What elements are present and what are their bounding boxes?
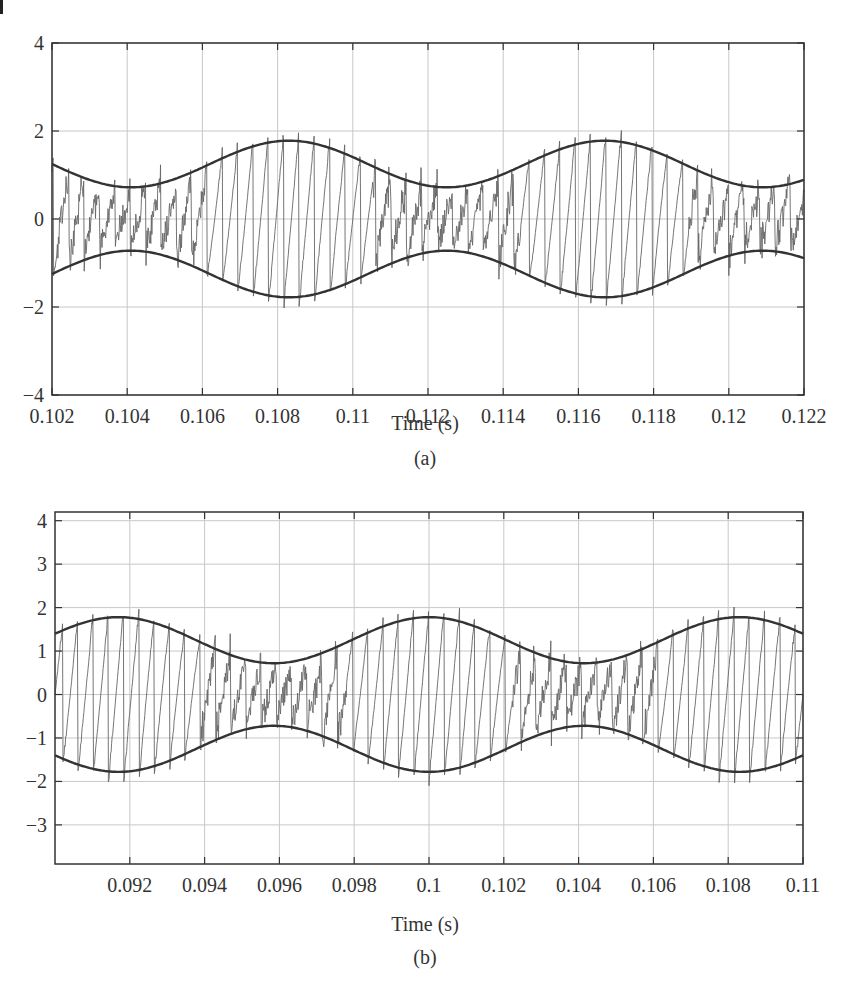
x-tick-label: 0.104 [556,874,601,896]
x-axis-title-b: Time (s) [0,913,850,936]
x-tick-label: 0.1 [417,874,442,896]
y-tick-label: −3 [26,814,47,836]
y-tick-label: 2 [37,597,47,619]
x-tick-label: 0.106 [631,874,676,896]
x-tick-label: 0.11 [786,874,820,896]
x-tick-label: 0.092 [107,874,152,896]
x-tick-label: 0.096 [257,874,302,896]
y-tick-label: 3 [37,553,47,575]
y-tick-label: 0 [37,684,47,706]
y-tick-label: 4 [37,510,47,532]
x-tick-label: 0.102 [481,874,526,896]
x-tick-label: 0.108 [706,874,751,896]
figure-panel-b: 0.0920.0940.0960.0980.10.1020.1040.1060.… [0,0,850,998]
x-tick-label: 0.094 [182,874,227,896]
y-tick-label: −1 [26,727,47,749]
signal-line [55,607,803,786]
caption-b: (b) [0,946,850,969]
chart-b: 0.0920.0940.0960.0980.10.1020.1040.1060.… [0,0,850,998]
y-tick-label: −2 [26,770,47,792]
x-tick-label: 0.098 [332,874,377,896]
y-tick-label: 1 [37,640,47,662]
